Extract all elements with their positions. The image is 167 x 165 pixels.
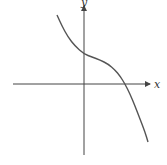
function-graph: x y [0,0,167,165]
y-axis-label: y [80,0,88,9]
x-axis-label: x [154,78,161,91]
function-curve [57,15,148,142]
